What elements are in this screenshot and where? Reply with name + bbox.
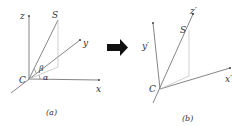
label-C: C <box>19 75 26 85</box>
label-x: x <box>96 84 101 94</box>
alpha-arc <box>39 75 40 79</box>
label-S: S <box>52 10 58 20</box>
label-beta: β <box>38 64 44 73</box>
label-S: S <box>180 25 186 35</box>
x-prime-axis <box>160 68 230 89</box>
caption-a: (a) <box>46 108 57 117</box>
label-z-prime: z′ <box>189 6 197 16</box>
y-axis <box>11 40 80 93</box>
beta-arc <box>34 69 36 73</box>
z-prime-axis <box>153 14 193 103</box>
right-arrow-icon <box>107 39 128 56</box>
label-y-prime: y′ <box>141 41 149 51</box>
label-alpha: α <box>43 73 49 82</box>
label-x-prime: x′ <box>225 74 232 84</box>
panel-b: z′ S y′ C x′ (b) <box>141 6 232 123</box>
panel-a: z S y C β α x (a) <box>11 10 101 117</box>
label-y: y <box>82 38 89 48</box>
x-axis <box>29 79 99 80</box>
coordinate-transform-diagram: z S y C β α x (a) z′ S y′ C x′ (b) <box>0 0 242 126</box>
label-C: C <box>149 84 156 94</box>
label-z: z <box>19 11 25 21</box>
caption-b: (b) <box>182 114 193 123</box>
y-prime-axis <box>153 23 160 89</box>
